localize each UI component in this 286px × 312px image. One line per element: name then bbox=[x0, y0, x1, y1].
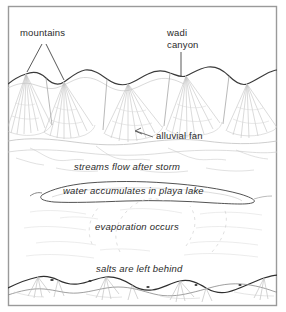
label-salts: salts are left behind bbox=[96, 264, 183, 274]
desert-playa-diagram: mountains wadi canyon alluvial fan strea… bbox=[0, 0, 286, 312]
label-mountains: mountains bbox=[20, 28, 65, 38]
label-streams-flow: streams flow after storm bbox=[74, 162, 180, 172]
label-wadi: wadi bbox=[167, 28, 187, 38]
label-alluvial-fan: alluvial fan bbox=[156, 131, 203, 141]
label-evaporation: evaporation occurs bbox=[95, 222, 179, 232]
label-canyon: canyon bbox=[167, 40, 199, 50]
label-playa-lake: water accumulates in playa lake bbox=[63, 186, 204, 196]
figure-frame bbox=[9, 7, 277, 306]
